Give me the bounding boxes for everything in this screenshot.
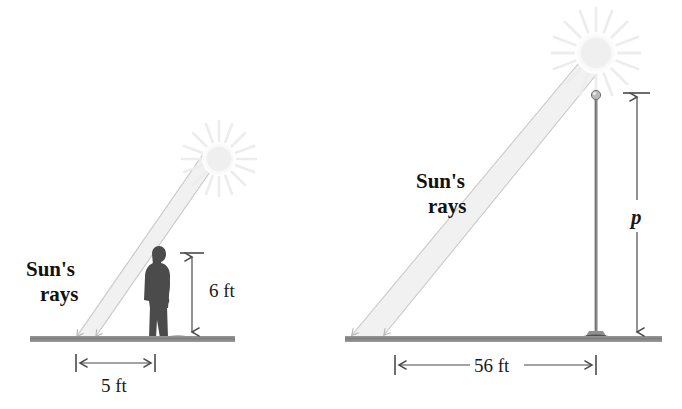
flagpole-shadow-panel: p 56 ft Sun's rays <box>345 8 662 376</box>
height-label-p: p <box>629 205 642 229</box>
ground-line-left <box>30 336 235 342</box>
shadow-similar-triangles-figure: 6 ft 5 ft Sun's rays <box>0 0 682 409</box>
sun-icon <box>182 121 256 196</box>
person-shadow-panel: 6 ft 5 ft Sun's rays <box>26 121 256 396</box>
suns-rays-label-right-line1: Sun's <box>416 169 465 193</box>
sun-icon <box>552 8 640 97</box>
suns-rays-label-right-line2: rays <box>428 194 467 218</box>
shadow-label-5ft: 5 ft <box>101 375 128 396</box>
shadow-label-56ft: 56 ft <box>474 355 510 376</box>
suns-rays-label-left-line1: Sun's <box>26 257 75 281</box>
flagpole <box>583 90 609 339</box>
shadow-dimension-left <box>76 354 155 372</box>
suns-rays-label-left-line2: rays <box>40 282 79 306</box>
height-dimension-left <box>180 253 204 332</box>
figure-canvas: 6 ft 5 ft Sun's rays <box>0 0 682 409</box>
sun-ray-beam-right <box>351 58 600 336</box>
height-label-6ft: 6 ft <box>209 280 236 301</box>
ground-line-right <box>345 336 662 342</box>
